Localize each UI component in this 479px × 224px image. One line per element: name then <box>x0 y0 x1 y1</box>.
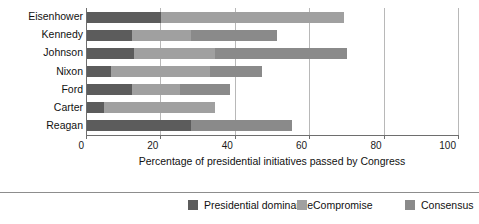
gridline <box>458 8 459 135</box>
bar-segment <box>132 84 180 95</box>
bar-segment <box>161 12 343 23</box>
bar-segment <box>210 66 262 77</box>
legend-swatch <box>188 200 198 210</box>
bar-segment <box>191 30 277 41</box>
y-axis-tick-labels: EisenhowerKennedyJohnsonNixonFordCarterR… <box>0 8 83 135</box>
legend-item: Presidential dominance <box>188 199 313 211</box>
legend-swatch <box>297 200 307 210</box>
x-tick-label: 60 <box>296 140 307 151</box>
bar-segment <box>180 84 230 95</box>
legend-label: Consensus <box>421 199 474 211</box>
gridline <box>309 8 310 135</box>
x-tick-label: 40 <box>222 140 233 151</box>
x-axis-title: Percentage of presidential initiatives p… <box>86 155 458 167</box>
x-tick-mark <box>309 135 310 139</box>
category-label: Carter <box>54 102 83 113</box>
bar-segment <box>104 102 216 113</box>
legend-item: Compromise <box>297 199 373 211</box>
bar-segment <box>87 12 161 23</box>
x-tick-mark <box>235 135 236 139</box>
category-label: Eisenhower <box>28 11 83 22</box>
x-tick-label: 20 <box>147 140 158 151</box>
x-tick-label: 80 <box>370 140 381 151</box>
bar-segment <box>87 120 191 131</box>
x-tick-mark <box>384 135 385 139</box>
bar-segment <box>191 120 291 131</box>
x-tick-label: 0 <box>78 140 84 151</box>
bar-segment <box>132 30 192 41</box>
x-tick-mark <box>458 135 459 139</box>
legend-label: Compromise <box>313 199 373 211</box>
x-tick-label: 100 <box>439 140 456 151</box>
bar-segment <box>111 66 210 77</box>
category-label: Ford <box>61 84 83 95</box>
bar-segment <box>87 102 104 113</box>
category-label: Johnson <box>43 47 83 58</box>
x-axis-line <box>86 135 459 136</box>
legend-item: Consensus <box>405 199 474 211</box>
bar-segment <box>134 48 216 59</box>
category-label: Nixon <box>56 66 83 77</box>
chart-legend: Presidential dominanceCompromiseConsensu… <box>0 192 479 217</box>
bar-segment <box>87 48 134 59</box>
bar-segment <box>87 66 111 77</box>
category-label: Reagan <box>46 120 83 131</box>
x-tick-mark <box>160 135 161 139</box>
plot-area: 020406080100 <box>86 8 458 135</box>
gridline <box>384 8 385 135</box>
bar-segment <box>87 30 132 41</box>
chart-figure: President EisenhowerKennedyJohnsonNixonF… <box>0 0 479 224</box>
x-tick-mark <box>86 135 87 139</box>
bar-segment <box>215 48 347 59</box>
category-label: Kennedy <box>42 29 83 40</box>
legend-swatch <box>405 200 415 210</box>
bar-segment <box>87 84 132 95</box>
